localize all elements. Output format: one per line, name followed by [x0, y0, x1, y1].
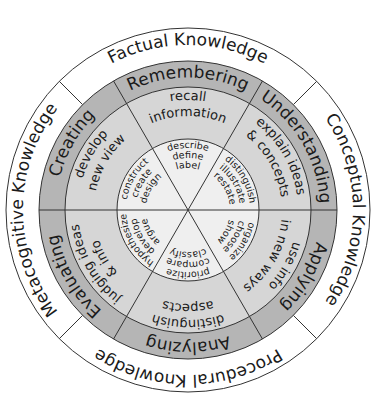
- blooms-wheel: Factual Knowledge Conceptual Knowledge P…: [0, 0, 380, 397]
